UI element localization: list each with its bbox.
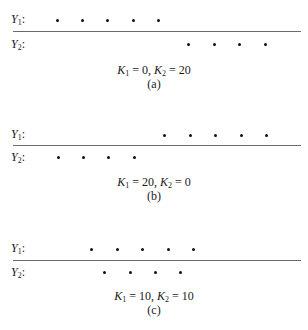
divider-line [13,31,301,32]
y1-dot [240,134,243,137]
y2-dot [154,271,157,274]
y1-dot [90,248,93,251]
y1-dot [132,19,135,22]
panel-c: Y1: Y2: K1 = 10, K2 = 10 (c) [0,220,308,330]
y1-dot [116,248,119,251]
y2-label: Y2: [11,37,25,55]
y1-dot [265,134,268,137]
y1-label: Y1: [11,241,25,259]
y2-dot [179,271,182,274]
y2-dot [82,156,85,159]
y2-dot [129,271,132,274]
y1-dot [56,19,59,22]
y1-dot [81,19,84,22]
y1-dot [106,19,109,22]
y2-label: Y2: [11,265,25,283]
panel-label: (a) [0,77,308,91]
y1-dot [189,134,192,137]
y2-dot [187,43,190,46]
y1-dot [214,134,217,137]
y2-dot [264,43,267,46]
y2-label: Y2: [11,150,25,168]
y2-dot [133,156,136,159]
y2-dot [238,43,241,46]
panel-a: Y1: Y2: K1 = 0, K2 = 20 (a) [0,0,308,110]
divider-line [13,145,301,146]
y1-label: Y1: [11,12,25,30]
y1-dot [192,248,195,251]
panel-label: (c) [0,303,308,317]
y1-dot [141,248,144,251]
y1-dot [163,134,166,137]
y2-dot [213,43,216,46]
panel-b: Y1: Y2: K1 = 20, K2 = 0 (b) [0,110,308,220]
y1-dot [167,248,170,251]
divider-line [13,260,301,261]
y1-label: Y1: [11,127,25,145]
y1-dot [157,19,160,22]
y2-dot [107,156,110,159]
panel-label: (b) [0,189,308,203]
y2-dot [103,271,106,274]
y2-dot [57,156,60,159]
